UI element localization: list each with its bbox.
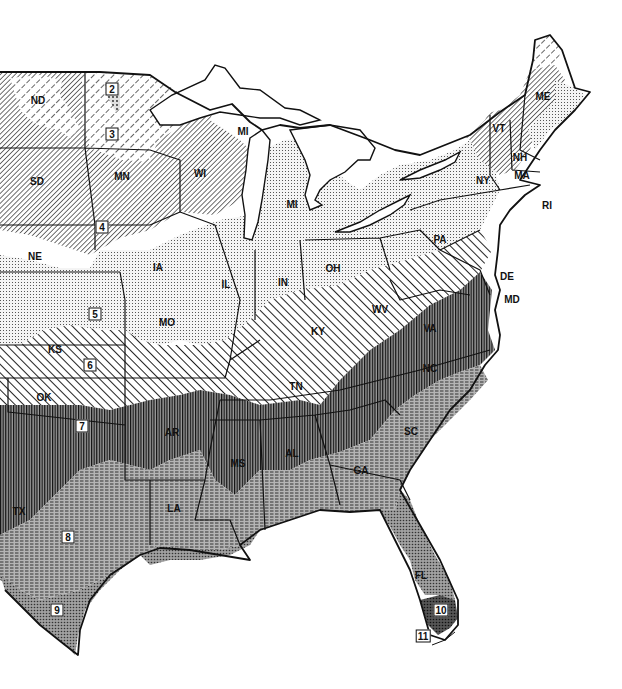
state-label-fl: FL [415,570,427,581]
zone-number-5: 5 [89,308,102,321]
zone-number-4: 4 [96,221,109,234]
zone-number-9: 9 [51,604,64,617]
zone-number-7: 7 [76,420,89,433]
state-label-ne: NE [28,251,42,262]
state-label-ky: KY [311,326,325,337]
state-label-ia: IA [153,262,163,273]
state-label-la: LA [167,503,180,514]
state-label-ny: NY [476,175,490,186]
state-label-sd: SD [30,176,44,187]
state-label-de: DE [500,271,514,282]
zone-number-10: 10 [433,604,448,617]
zone-number-2: 2 [106,83,119,96]
hardiness-zone-map [0,0,622,689]
state-label-ar: AR [165,427,179,438]
state-label-ks: KS [48,344,62,355]
state-label-il: IL [222,279,231,290]
state-label-mi: MI [237,126,248,137]
state-label-al: AL [285,448,298,459]
state-label-me: ME [536,91,551,102]
state-label-wv: WV [372,304,388,315]
state-label-mn: MN [114,171,130,182]
state-label-ma: MA [514,170,530,181]
state-label-sc: SC [404,426,418,437]
state-label-mo: MO [159,317,175,328]
state-label-oh: OH [326,263,341,274]
state-label-md: MD [504,294,520,305]
state-label-nc: NC [423,363,437,374]
state-label-tx: TX [13,506,26,517]
zone-number-6: 6 [84,359,97,372]
state-label-vt: VT [493,123,506,134]
state-label-wi: WI [194,168,206,179]
state-label-nd: ND [31,95,45,106]
florida-keys [432,632,455,645]
lake-superior [150,65,320,125]
state-label-pa: PA [433,234,446,245]
state-label-ok: OK [37,392,52,403]
state-label-nh: NH [513,152,527,163]
state-label-in: IN [278,277,288,288]
zone-number-3: 3 [106,128,119,141]
zone-number-11: 11 [416,630,431,643]
state-label-va: VA [423,323,436,334]
zone-number-8: 8 [62,531,75,544]
state-label-ri: RI [542,200,552,211]
state-label-ga: GA [354,465,369,476]
state-label-tn: TN [289,381,302,392]
state-label-mi: MI [286,199,297,210]
state-label-ms: MS [231,458,246,469]
